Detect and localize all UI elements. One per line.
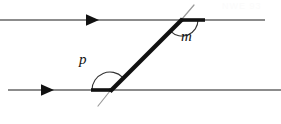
- transversal-line: [110, 19, 183, 92]
- transversal-upper-tail: [182, 5, 194, 19]
- corner-watermark: NWE 93: [222, 1, 262, 11]
- angle-label-p: p: [79, 52, 87, 67]
- transversal-lower-tail: [98, 91, 110, 106]
- arrowheads-group: [41, 14, 99, 96]
- top-arrowhead: [86, 14, 99, 26]
- geometry-figure: m p NWE 93: [0, 0, 281, 124]
- angle-label-m: m: [181, 29, 192, 44]
- top-intersection-point: [180, 18, 183, 21]
- bottom-arrowhead: [41, 84, 54, 96]
- bottom-intersection-point: [108, 88, 111, 91]
- diagram-canvas: [0, 0, 281, 124]
- parallel-lines-group: [0, 20, 281, 90]
